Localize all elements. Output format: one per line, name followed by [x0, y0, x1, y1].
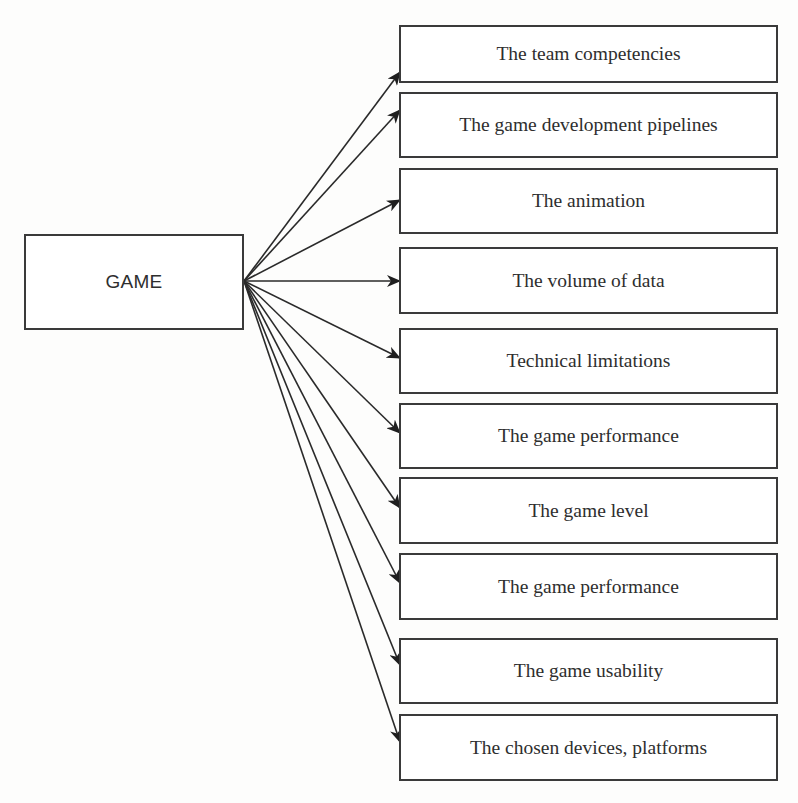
leaf-node-label: The game performance — [498, 576, 679, 598]
leaf-node-label: Technical limitations — [507, 350, 671, 372]
leaf-node-game-level: The game level — [399, 477, 778, 544]
leaf-node-volume-of-data: The volume of data — [399, 247, 778, 314]
leaf-node-team-competencies: The team competencies — [399, 25, 778, 83]
connector-arrow-4 — [244, 281, 400, 358]
connector-arrow-7 — [244, 281, 400, 583]
leaf-node-label: The game performance — [498, 425, 679, 447]
leaf-node-label: The chosen devices, platforms — [470, 737, 707, 759]
leaf-node-animation: The animation — [399, 168, 778, 234]
leaf-node-label: The volume of data — [512, 270, 664, 292]
connector-arrow-0 — [244, 72, 400, 281]
leaf-node-game-performance: The game performance — [399, 403, 778, 469]
leaf-node-label: The team competencies — [496, 43, 680, 65]
connector-arrow-5 — [244, 281, 400, 433]
leaf-node-development-pipelines: The game development pipelines — [399, 92, 778, 158]
root-node-label: GAME — [106, 271, 163, 293]
leaf-node-technical-limitations: Technical limitations — [399, 328, 778, 394]
leaf-node-label: The game level — [528, 500, 648, 522]
connector-arrow-1 — [244, 110, 400, 281]
leaf-node-label: The animation — [532, 190, 645, 212]
leaf-node-game-usability: The game usability — [399, 638, 778, 704]
connector-arrow-2 — [244, 200, 400, 281]
leaf-node-game-performance-2: The game performance — [399, 553, 778, 620]
leaf-node-label: The game development pipelines — [459, 114, 717, 136]
root-node-game: GAME — [24, 234, 244, 330]
connector-arrow-9 — [244, 281, 400, 742]
leaf-node-chosen-devices-platforms: The chosen devices, platforms — [399, 714, 778, 781]
leaf-node-label: The game usability — [514, 660, 663, 682]
diagram-canvas: GAME The team competencies The game deve… — [0, 0, 798, 803]
